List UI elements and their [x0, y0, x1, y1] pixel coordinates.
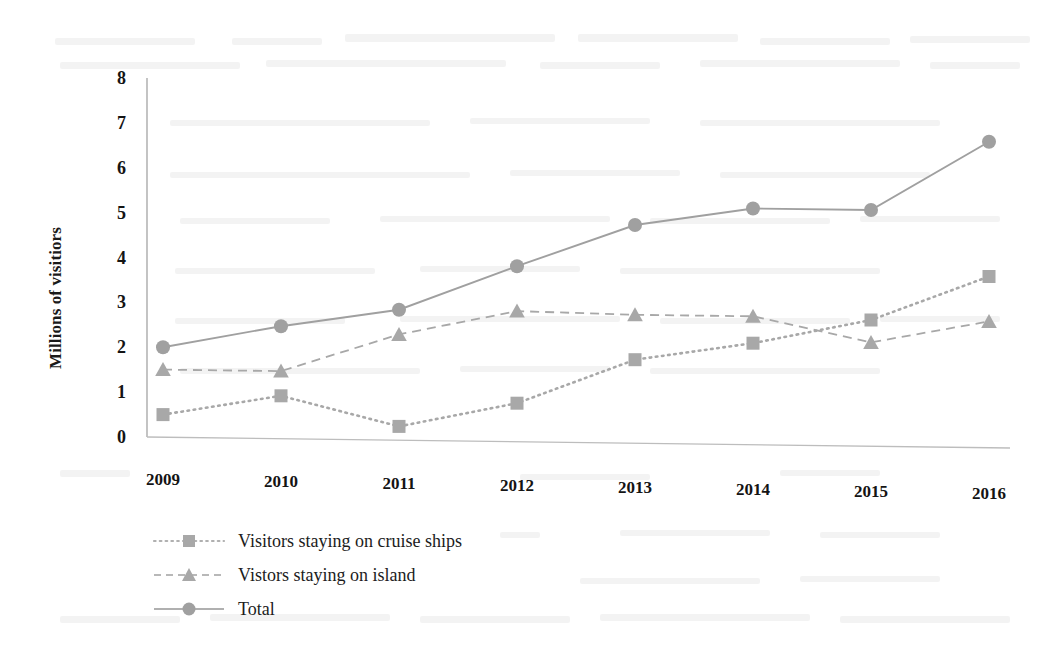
data-point-marker[interactable] [982, 135, 996, 149]
data-point-marker[interactable] [156, 340, 170, 354]
data-point-marker[interactable] [983, 270, 996, 283]
data-point-marker[interactable] [747, 337, 760, 350]
legend-label-total: Total [238, 599, 275, 620]
data-point-marker[interactable] [746, 202, 760, 216]
data-point-marker[interactable] [981, 314, 997, 328]
data-point-marker[interactable] [510, 259, 524, 273]
data-point-marker[interactable] [864, 203, 878, 217]
data-point-marker[interactable] [865, 314, 878, 327]
legend-label-cruise-ships: Visitors staying on cruise ships [238, 531, 462, 552]
series-line-1 [163, 277, 989, 427]
legend-label-island: Vistors staying on island [238, 565, 415, 586]
data-point-marker[interactable] [392, 303, 406, 317]
data-point-marker[interactable] [274, 319, 288, 333]
legend-swatch-solid-circle [152, 600, 226, 618]
x-axis-line [147, 437, 1010, 448]
data-point-marker[interactable] [628, 218, 642, 232]
legend-swatch-dotted-square [152, 532, 226, 550]
data-point-marker[interactable] [393, 420, 406, 433]
chart-legend: Visitors staying on cruise ships Vistors… [152, 524, 572, 626]
data-point-marker[interactable] [629, 353, 642, 366]
data-point-marker[interactable] [275, 389, 288, 402]
data-point-marker[interactable] [157, 408, 170, 421]
legend-item-cruise-ships[interactable]: Visitors staying on cruise ships [152, 524, 572, 558]
series-1 [157, 270, 996, 433]
line-chart-figure: Millions of visitiors 8 7 6 5 4 3 2 1 0 … [0, 0, 1059, 658]
data-point-marker[interactable] [511, 397, 524, 410]
legend-item-total[interactable]: Total [152, 592, 572, 626]
legend-item-island[interactable]: Vistors staying on island [152, 558, 572, 592]
legend-swatch-dashed-triangle [152, 566, 226, 584]
